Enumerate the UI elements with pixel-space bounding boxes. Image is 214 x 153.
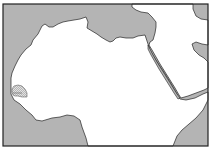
locator-map [0, 0, 214, 153]
